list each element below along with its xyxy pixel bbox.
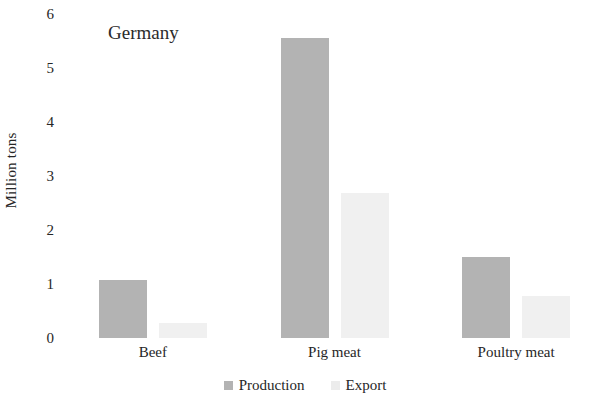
- y-axis-tick-labels: 0123456: [22, 0, 60, 404]
- y-axis-tick: 6: [47, 7, 55, 22]
- y-axis-title-label: Million tons: [3, 132, 20, 208]
- bar-production[interactable]: [462, 257, 510, 338]
- plot-area: [62, 14, 607, 338]
- bar-production[interactable]: [99, 280, 147, 338]
- bar-group: [99, 14, 207, 338]
- bar-export[interactable]: [341, 193, 389, 338]
- production-swatch: [224, 381, 233, 390]
- y-axis-tick: 0: [47, 331, 55, 346]
- y-axis-tick: 3: [47, 169, 55, 184]
- chart-legend: ProductionExport: [0, 377, 610, 394]
- legend-label: Export: [346, 377, 387, 394]
- bar-chart: Germany Million tons 0123456 BeefPig mea…: [0, 0, 610, 404]
- bar-export[interactable]: [159, 323, 207, 338]
- bar-group: [281, 14, 389, 338]
- bar-export[interactable]: [522, 296, 570, 338]
- y-axis-tick: 2: [47, 223, 55, 238]
- x-axis-category-label: Pig meat: [308, 344, 361, 361]
- y-axis-tick: 1: [47, 277, 55, 292]
- bar-group: [462, 14, 570, 338]
- y-axis-tick: 4: [47, 115, 55, 130]
- x-axis-category-label: Poultry meat: [478, 344, 555, 361]
- y-axis-title: Million tons: [0, 0, 22, 340]
- legend-item[interactable]: Production: [224, 377, 305, 394]
- y-axis-tick: 5: [47, 61, 55, 76]
- x-axis-category-labels: BeefPig meatPoultry meat: [62, 344, 607, 366]
- bar-production[interactable]: [281, 38, 329, 338]
- export-swatch: [331, 381, 340, 390]
- legend-item[interactable]: Export: [331, 377, 387, 394]
- legend-label: Production: [239, 377, 305, 394]
- x-axis-category-label: Beef: [139, 344, 167, 361]
